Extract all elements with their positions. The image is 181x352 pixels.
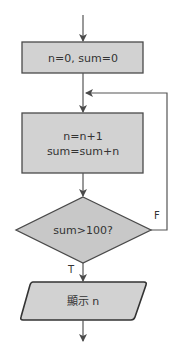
update-label-line1: n=n+1 — [63, 130, 102, 143]
check-decision-diamond: sum>100? — [16, 197, 151, 263]
check-label: sum>100? — [53, 224, 113, 237]
init-process-box: n=0, sum=0 — [22, 42, 143, 73]
false-branch-label: F — [154, 210, 160, 221]
update-process-box: n=n+1 sum=sum+n — [22, 113, 143, 173]
output-io-box: 顯示 n — [21, 282, 147, 320]
init-label: n=0, sum=0 — [48, 52, 118, 65]
output-label: 顯示 n — [67, 295, 99, 308]
true-branch-label: T — [67, 264, 75, 275]
update-label-line2: sum=sum+n — [47, 145, 119, 158]
flowchart: n=0, sum=0 n=n+1 sum=sum+n sum>100? F T … — [0, 0, 181, 352]
